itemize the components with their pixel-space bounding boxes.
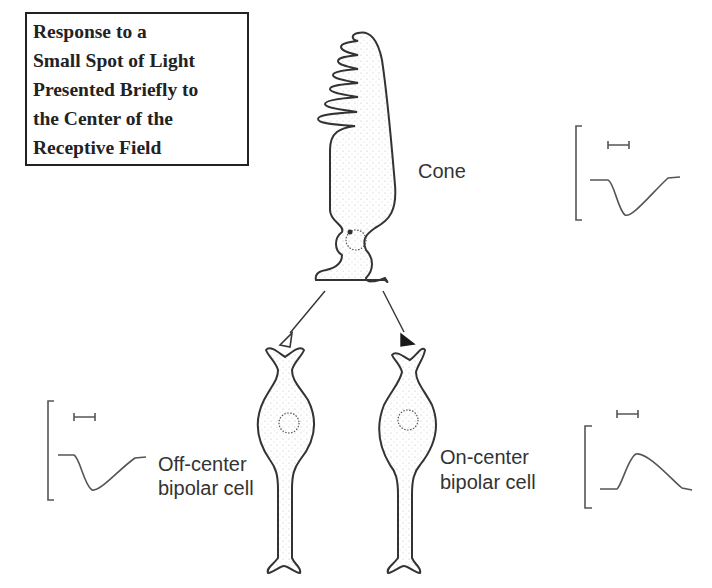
on-center-label-line-1: On-center — [440, 445, 529, 469]
off-center-synapse-open-triangle — [280, 333, 292, 347]
cone-cell — [316, 32, 396, 282]
synapse-lines — [290, 291, 404, 333]
off-center-bipolar-cell — [258, 348, 314, 573]
on-center-synapse-filled-triangle — [401, 334, 414, 346]
cone-response-trace — [576, 126, 680, 220]
cone-label: Cone — [418, 159, 466, 183]
off-center-label-line-1: Off-center — [158, 452, 247, 476]
off-center-label-line-2: bipolar cell — [158, 476, 254, 500]
on-center-response-trace — [585, 410, 692, 508]
diagram-art — [0, 0, 712, 588]
on-center-label-line-2: bipolar cell — [440, 470, 536, 494]
on-center-bipolar-cell — [379, 349, 436, 573]
off-center-response-trace — [48, 401, 146, 500]
